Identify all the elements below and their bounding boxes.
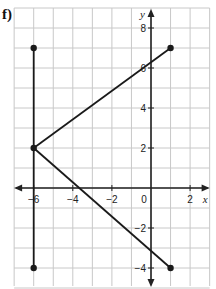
- x-axis-left-arrow-icon: [14, 185, 22, 192]
- y-axis-up-arrow-icon: [148, 9, 155, 17]
- graph-figure: f) −6−4−2028642−2−4xy: [0, 0, 216, 289]
- y-tick-label: 4: [140, 103, 146, 114]
- endpoint-dot: [167, 45, 173, 51]
- x-axis-label: x: [202, 193, 208, 205]
- x-axis-right-arrow-icon: [202, 185, 210, 192]
- grid-lines: [14, 8, 210, 288]
- y-tick-label: −4: [135, 263, 147, 274]
- endpoint-dot: [167, 265, 173, 271]
- y-tick-label: 2: [140, 143, 146, 154]
- endpoint-dot: [31, 45, 37, 51]
- x-tick-label: −2: [106, 194, 118, 205]
- line-segments: [34, 48, 171, 268]
- x-tick-label: −4: [67, 194, 79, 205]
- y-tick-label: 8: [140, 23, 146, 34]
- y-tick-label: −2: [135, 223, 147, 234]
- y-axis-label: y: [139, 8, 145, 20]
- endpoints: [31, 45, 174, 271]
- y-axis-down-arrow-icon: [148, 279, 155, 287]
- coordinate-plane: −6−4−2028642−2−4xy: [0, 0, 216, 289]
- endpoint-dot: [31, 145, 37, 151]
- line-segment: [34, 48, 171, 148]
- x-tick-label: 2: [187, 194, 193, 205]
- x-tick-label: 0: [141, 194, 147, 205]
- endpoint-dot: [31, 265, 37, 271]
- part-label: f): [2, 6, 12, 23]
